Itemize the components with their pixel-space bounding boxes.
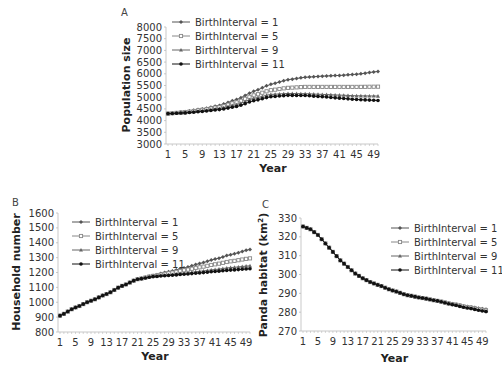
x-tick-label: 5 bbox=[182, 149, 188, 160]
data-point-marker bbox=[217, 256, 221, 260]
data-point-marker bbox=[144, 276, 148, 280]
data-point-marker bbox=[213, 270, 217, 274]
data-point-marker bbox=[282, 87, 285, 90]
data-point-marker bbox=[466, 306, 470, 310]
data-point-marker bbox=[163, 274, 167, 278]
data-point-marker bbox=[194, 266, 197, 269]
data-point-marker bbox=[221, 255, 225, 259]
data-point-marker bbox=[417, 296, 421, 300]
data-point-marker bbox=[346, 97, 350, 101]
data-point-marker bbox=[186, 268, 189, 271]
data-point-marker bbox=[188, 111, 192, 115]
x-tick-label: 49 bbox=[367, 149, 380, 160]
legend-label: BirthInterval = 9 bbox=[414, 251, 497, 262]
series-line bbox=[168, 71, 378, 113]
data-point-marker bbox=[237, 268, 241, 272]
data-point-marker bbox=[355, 72, 359, 76]
data-point-marker bbox=[101, 294, 105, 298]
x-tick-label: 13 bbox=[213, 149, 226, 160]
data-point-marker bbox=[432, 298, 436, 302]
data-point-marker bbox=[230, 105, 234, 109]
data-point-marker bbox=[316, 95, 320, 99]
data-point-marker bbox=[81, 302, 85, 306]
data-point-marker bbox=[295, 76, 299, 80]
x-tick-label: 9 bbox=[88, 337, 94, 348]
x-tick-label: 13 bbox=[100, 337, 113, 348]
data-point-marker bbox=[338, 96, 342, 100]
legend-item: BirthInterval = 5 bbox=[172, 31, 278, 42]
x-tick-label: 33 bbox=[299, 149, 312, 160]
y-tick-label: 1400 bbox=[29, 237, 54, 248]
legend-label: BirthInterval = 1 bbox=[414, 223, 497, 234]
data-point-marker bbox=[74, 306, 78, 310]
data-point-marker bbox=[413, 295, 417, 299]
x-tick-label: 29 bbox=[401, 336, 414, 347]
legend: BirthInterval = 1BirthInterval = 5BirthI… bbox=[72, 217, 185, 270]
data-point-marker bbox=[200, 110, 204, 114]
y-axis-title: Panda habitat (km2) bbox=[257, 213, 270, 338]
x-tick-label: 25 bbox=[264, 149, 277, 160]
data-point-marker bbox=[244, 267, 248, 271]
data-point-marker bbox=[167, 274, 171, 278]
data-point-marker bbox=[376, 85, 379, 88]
data-point-marker bbox=[363, 98, 367, 102]
data-point-marker bbox=[480, 309, 484, 313]
data-point-marker bbox=[209, 270, 213, 274]
legend-item: BirthInterval = 11 bbox=[72, 259, 185, 270]
data-point-marker bbox=[66, 310, 70, 314]
data-point-marker bbox=[225, 260, 228, 263]
legend-item: BirthInterval = 5 bbox=[391, 237, 497, 248]
y-tick-label: 3000 bbox=[137, 139, 162, 150]
legend-item: BirthInterval = 11 bbox=[391, 265, 502, 276]
data-point-marker bbox=[201, 261, 205, 265]
x-tick-label: 33 bbox=[178, 337, 191, 348]
data-point-marker bbox=[350, 97, 354, 101]
data-point-marker bbox=[320, 95, 324, 99]
data-point-marker bbox=[333, 74, 337, 78]
data-point-marker bbox=[402, 292, 406, 296]
data-point-marker bbox=[295, 86, 298, 89]
data-point-marker bbox=[291, 86, 294, 89]
data-point-marker bbox=[209, 258, 213, 262]
data-point-marker bbox=[286, 94, 290, 98]
data-point-marker bbox=[473, 308, 477, 312]
data-point-marker bbox=[372, 99, 376, 103]
legend: BirthInterval = 1BirthInterval = 5BirthI… bbox=[391, 223, 502, 276]
panda-habitat-chart: C270280290300310320330159131721252933374… bbox=[251, 180, 502, 380]
legend-item: BirthInterval = 11 bbox=[172, 59, 285, 70]
data-point-marker bbox=[346, 73, 350, 77]
legend-label: BirthInterval = 5 bbox=[195, 31, 278, 42]
data-point-marker bbox=[240, 249, 244, 253]
data-point-marker bbox=[398, 240, 401, 243]
legend-item: BirthInterval = 9 bbox=[172, 45, 278, 56]
data-point-marker bbox=[398, 268, 402, 272]
data-point-marker bbox=[243, 102, 247, 106]
legend-item: BirthInterval = 1 bbox=[391, 223, 497, 234]
data-point-marker bbox=[237, 259, 240, 262]
data-point-marker bbox=[312, 94, 316, 98]
data-point-marker bbox=[116, 286, 120, 290]
x-tick-label: 17 bbox=[116, 337, 129, 348]
data-point-marker bbox=[179, 111, 183, 115]
data-point-marker bbox=[304, 85, 307, 88]
y-tick-label: 8000 bbox=[137, 22, 162, 33]
x-tick-label: 9 bbox=[199, 149, 205, 160]
data-point-marker bbox=[436, 299, 440, 303]
data-point-marker bbox=[260, 86, 264, 90]
y-axis-title: Household number bbox=[10, 213, 23, 331]
y-tick-label: 6500 bbox=[137, 57, 162, 68]
data-point-marker bbox=[359, 85, 362, 88]
x-tick-label: 49 bbox=[476, 336, 489, 347]
data-point-marker bbox=[273, 95, 277, 99]
data-point-marker bbox=[365, 278, 369, 282]
data-point-marker bbox=[320, 237, 324, 241]
data-point-marker bbox=[299, 86, 302, 89]
data-point-marker bbox=[338, 85, 341, 88]
panel-letter: C bbox=[262, 199, 269, 210]
y-tick-label: 3500 bbox=[137, 127, 162, 138]
data-point-marker bbox=[206, 270, 210, 274]
data-point-marker bbox=[269, 95, 273, 99]
y-tick-label: 5500 bbox=[137, 80, 162, 91]
data-point-marker bbox=[351, 85, 354, 88]
data-point-marker bbox=[70, 307, 74, 311]
